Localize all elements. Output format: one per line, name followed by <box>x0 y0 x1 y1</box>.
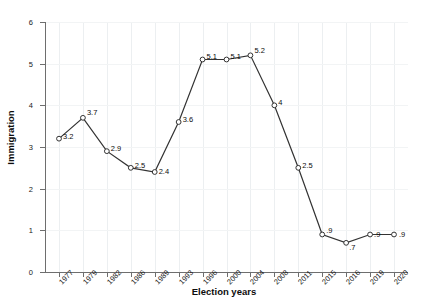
data-point-label: 3.6 <box>183 115 193 124</box>
data-point-marker <box>296 165 301 170</box>
data-point-marker <box>344 240 349 245</box>
data-point-label: 3.7 <box>87 108 97 117</box>
data-point-marker <box>57 136 62 141</box>
data-point-marker <box>152 170 157 175</box>
data-point-label: 2.4 <box>159 167 169 176</box>
line-chart: Immigration 0123456 19771979198219861989… <box>0 0 448 303</box>
data-point-marker <box>104 149 109 154</box>
data-point-marker <box>176 120 181 125</box>
y-tick-label: 4 <box>0 101 40 110</box>
data-point-label: 5.1 <box>231 52 241 61</box>
data-point-marker <box>248 53 253 58</box>
y-tick-mark <box>40 272 45 273</box>
data-series <box>45 22 408 272</box>
data-point-label: .9 <box>326 226 332 235</box>
data-point-label: .9 <box>399 230 405 239</box>
data-point-label: 3.2 <box>63 132 73 141</box>
data-point-marker <box>320 232 325 237</box>
y-tick-label: 2 <box>0 184 40 193</box>
y-axis-title-text: Immigration <box>5 110 16 164</box>
y-tick-label: 0 <box>0 268 40 277</box>
data-point-label: 5.1 <box>207 52 217 61</box>
x-axis-title: Election years <box>0 286 448 297</box>
y-axis-title: Immigration <box>2 0 18 303</box>
data-point-label: .9 <box>374 230 380 239</box>
y-tick-label: 3 <box>0 143 40 152</box>
data-point-label: .7 <box>349 243 355 252</box>
data-point-marker <box>224 57 229 62</box>
y-tick-label: 5 <box>0 59 40 68</box>
series-line <box>59 55 394 243</box>
data-point-marker <box>368 232 373 237</box>
data-point-label: 2.5 <box>135 161 145 170</box>
data-point-label: 5.2 <box>254 46 264 55</box>
data-point-marker <box>272 103 277 108</box>
data-point-marker <box>200 57 205 62</box>
y-tick-label: 6 <box>0 18 40 27</box>
data-point-label: 2.9 <box>111 144 121 153</box>
data-point-label: 2.5 <box>302 161 312 170</box>
data-point-marker <box>81 115 86 120</box>
data-point-marker <box>392 232 397 237</box>
data-point-marker <box>128 165 133 170</box>
data-point-label: 4 <box>278 98 282 107</box>
y-tick-label: 1 <box>0 226 40 235</box>
